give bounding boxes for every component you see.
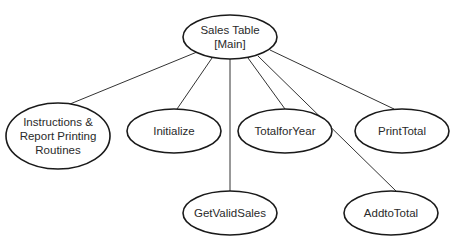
node-label: Instructions &: [23, 116, 93, 128]
node-label: Sales Table: [200, 24, 259, 36]
edge-sales-table-to-print-total: [270, 50, 394, 109]
nodes: Sales Table[Main]Instructions &Report Pr…: [6, 15, 449, 235]
node-sales-table: Sales Table[Main]: [183, 15, 277, 59]
hierarchy-diagram: Sales Table[Main]Instructions &Report Pr…: [0, 0, 459, 249]
node-add-to-total: AddtoTotal: [344, 191, 438, 235]
edge-sales-table-to-initialize: [177, 58, 212, 109]
edge-sales-table-to-total-for-year: [248, 58, 285, 109]
node-ellipse: [183, 15, 277, 59]
node-print-total: PrintTotal: [355, 109, 449, 153]
node-label: Initialize: [153, 125, 195, 137]
node-label: TotalforYear: [255, 125, 316, 137]
node-label: [Main]: [214, 38, 245, 50]
edges: [70, 50, 396, 191]
node-label: PrintTotal: [378, 125, 426, 137]
node-label: Report Printing: [20, 130, 97, 142]
edge-sales-table-to-instructions: [70, 52, 197, 104]
node-label: AddtoTotal: [364, 207, 418, 219]
node-label: GetValidSales: [194, 207, 266, 219]
node-get-valid-sales: GetValidSales: [183, 191, 277, 235]
node-instructions: Instructions &Report PrintingRoutines: [6, 103, 110, 169]
node-initialize: Initialize: [127, 109, 221, 153]
node-total-for-year: TotalforYear: [238, 109, 332, 153]
node-label: Routines: [35, 144, 81, 156]
